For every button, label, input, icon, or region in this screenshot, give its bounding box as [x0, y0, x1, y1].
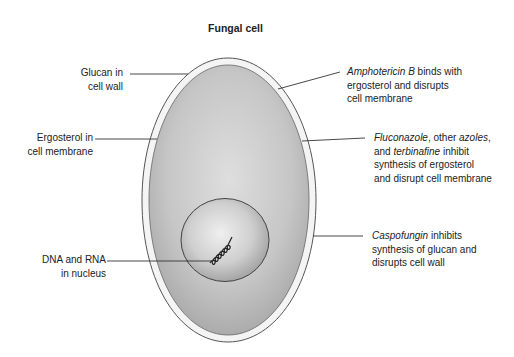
label-glucan-line1: Glucan in	[81, 66, 123, 80]
label-ergosterol-line1: Ergosterol in	[27, 131, 93, 145]
drug-name-amphotericin: Amphotericin B	[347, 66, 415, 77]
azoles-sep1: , other	[428, 132, 459, 143]
label-dna-line2: in nucleus	[42, 267, 106, 281]
azoles-line1: Fluconazole, other azoles,	[374, 131, 492, 145]
caspofungin-line1-rest: inhibits	[428, 230, 462, 241]
nucleus	[181, 199, 269, 282]
azoles-line2-pre: and	[374, 146, 393, 157]
label-dna-line1: DNA and RNA	[42, 253, 106, 267]
azoles-line2: and terbinafine inhibit	[374, 145, 492, 159]
label-glucan-line2: cell wall	[81, 80, 123, 94]
drug-name-azoles: azoles	[459, 132, 488, 143]
amphotericin-line3: cell membrane	[347, 92, 462, 106]
azoles-line2-rest: inhibit	[440, 146, 469, 157]
label-ergosterol-membrane: Ergosterol in cell membrane	[27, 131, 93, 158]
caspofungin-line1: Caspofungin inhibits	[372, 229, 477, 243]
leader-line-azoles	[302, 138, 365, 141]
caspofungin-line3: disrupts cell wall	[372, 256, 477, 270]
drug-name-terbinafine: terbinafine	[393, 146, 440, 157]
leader-line-amphotericin	[278, 72, 340, 89]
label-caspofungin: Caspofungin inhibits synthesis of glucan…	[372, 229, 477, 270]
label-amphotericin-b: Amphotericin B binds with ergosterol and…	[347, 65, 462, 106]
azoles-sep2: ,	[488, 132, 491, 143]
amphotericin-line1: Amphotericin B binds with	[347, 65, 462, 79]
drug-name-caspofungin: Caspofungin	[372, 230, 428, 241]
amphotericin-line1-rest: binds with	[415, 66, 462, 77]
label-fluconazole-azoles-terbinafine: Fluconazole, other azoles, and terbinafi…	[374, 131, 492, 185]
drug-name-fluconazole: Fluconazole	[374, 132, 428, 143]
azoles-line4: and disrupt cell membrane	[374, 172, 492, 186]
caspofungin-line2: synthesis of glucan and	[372, 243, 477, 257]
label-glucan-cell-wall: Glucan in cell wall	[81, 66, 123, 93]
azoles-line3: synthesis of ergosterol	[374, 158, 492, 172]
label-dna-rna-nucleus: DNA and RNA in nucleus	[42, 253, 106, 280]
label-ergosterol-line2: cell membrane	[27, 145, 93, 159]
amphotericin-line2: ergosterol and disrupts	[347, 79, 462, 93]
